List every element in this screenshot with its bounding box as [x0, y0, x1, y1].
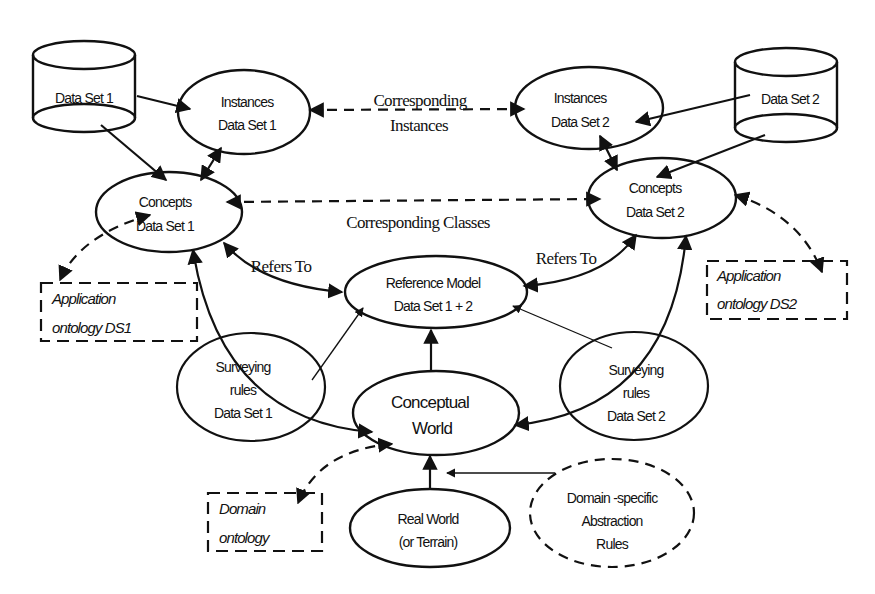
domain-ontology-line1: Domain: [219, 500, 266, 517]
domain-specific-rules-node: Domain -specific Abstraction Rules: [530, 459, 694, 567]
surveying-ds2-line3: Data Set 2: [607, 408, 666, 424]
app-ontology-ds1-line1: Application: [51, 290, 116, 307]
conceptual-world-line2: World: [412, 419, 452, 438]
app-ontology-ds2-line1: Application: [716, 267, 781, 284]
edge-corresponding-classes: [227, 199, 600, 202]
dataset2-cylinder: Data Set 2: [735, 48, 837, 142]
conceptual-world-node: Conceptual World: [353, 371, 519, 455]
refers-to-right-label: Refers To: [536, 249, 597, 268]
app-ontology-ds1-box: Application ontology DS1: [41, 283, 197, 341]
real-world-node: Real World (or Terrain): [350, 489, 510, 567]
concepts-ds1-node: Concepts Data Set 1: [96, 172, 242, 252]
edge-surveying1-reference: [312, 308, 363, 380]
concepts-ds1-line1: Concepts: [139, 194, 193, 210]
domain-specific-line3: Rules: [596, 536, 629, 552]
reference-model-node: Reference Model Data Set 1 + 2: [345, 256, 527, 328]
edge-instances1-concepts1: [201, 148, 221, 180]
concepts-ds2-node: Concepts Data Set 2: [588, 158, 736, 238]
concepts-ds2-line1: Concepts: [629, 180, 683, 196]
edge-instances2-concepts2: [600, 136, 617, 170]
app-ontology-ds2-box: Application ontology DS2: [707, 261, 847, 319]
domain-specific-line2: Abstraction: [581, 513, 642, 529]
surveying-ds1-line3: Data Set 1: [214, 405, 273, 421]
conceptual-world-line1: Conceptual: [391, 393, 469, 412]
edge-surveying2-reference: [513, 306, 612, 348]
domain-ontology-box: Domain ontology: [208, 493, 322, 551]
surveying-ds1-node: Surveying rules Data Set 1: [177, 333, 325, 441]
instances-ds2-line2: Data Set 2: [551, 114, 610, 130]
corresponding-classes-label: Corresponding Classes: [346, 213, 490, 232]
reference-model-line2: Data Set 1 + 2: [394, 298, 474, 314]
real-world-line1: Real World: [398, 511, 459, 527]
corresponding-instances-label-1: Corresponding: [373, 91, 467, 110]
surveying-ds2-node: Surveying rules Data Set 2: [560, 332, 708, 440]
surveying-ds1-line2: rules: [230, 382, 257, 398]
edge-ds2-to-concepts2: [657, 135, 765, 177]
diagram-canvas: Data Set 1 Data Set 2 Instances Data Set…: [0, 0, 875, 594]
app-ontology-ds2-line2: ontology DS2: [717, 295, 798, 312]
real-world-line2: (or Terrain): [399, 534, 458, 550]
domain-specific-line1: Domain -specific: [567, 490, 658, 506]
edge-ds2-to-instances2: [636, 95, 750, 122]
dataset1-cylinder: Data Set 1: [33, 41, 135, 132]
edge-conceptual-world-domain-ontology: [298, 444, 392, 503]
instances-ds1-node: Instances Data Set 1: [178, 70, 310, 154]
concepts-ds1-line2: Data Set 1: [136, 218, 195, 234]
instances-ds2-node: Instances Data Set 2: [515, 67, 663, 149]
app-ontology-ds1-line2: ontology DS1: [52, 319, 132, 336]
dataset2-label: Data Set 2: [761, 91, 820, 107]
instances-ds1-line1: Instances: [221, 94, 275, 110]
reference-model-line1: Reference Model: [386, 275, 481, 291]
concepts-ds2-line2: Data Set 2: [626, 204, 685, 220]
dataset1-label: Data Set 1: [55, 90, 114, 106]
instances-ds1-line2: Data Set 1: [218, 117, 277, 133]
refers-to-left-label: Refers To: [251, 257, 312, 276]
domain-ontology-line2: ontology: [219, 529, 271, 546]
instances-ds2-line1: Instances: [554, 90, 608, 106]
edge-ds1-to-concepts1: [101, 125, 166, 180]
surveying-ds2-line2: rules: [623, 385, 650, 401]
corresponding-instances-label-2: Instances: [390, 116, 448, 135]
